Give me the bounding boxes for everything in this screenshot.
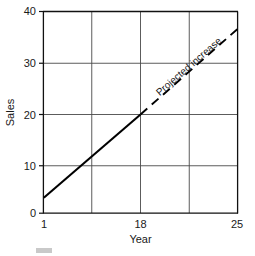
chart-canvas: 40 30 20 10 0 1 18 25 Year Sales Project… [0, 0, 255, 256]
y-tick-label-0: 0 [30, 207, 36, 219]
x-axis-title: Year [129, 233, 152, 245]
y-axis-title: Sales [4, 98, 16, 126]
y-tick-label-20: 20 [24, 109, 36, 121]
y-tick-label-30: 30 [24, 57, 36, 69]
x-tick-label-18: 18 [134, 218, 146, 230]
vertical-gridlines [92, 12, 190, 213]
x-tick-label-1: 1 [41, 218, 47, 230]
x-tick-label-25: 25 [231, 218, 243, 230]
y-tick-label-40: 40 [24, 5, 36, 17]
y-axis-ticks [39, 12, 43, 214]
y-tick-label-10: 10 [24, 160, 36, 172]
sales-projection-chart: 40 30 20 10 0 1 18 25 Year Sales Project… [0, 0, 255, 256]
page-artifact [36, 248, 52, 253]
